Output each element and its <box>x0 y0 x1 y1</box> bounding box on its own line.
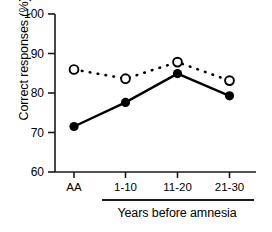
datapoint-open-11-20 <box>173 58 182 67</box>
x-axis-caption: Years before amnesia <box>97 206 257 220</box>
datapoint-filled-1-10 <box>121 98 130 107</box>
series-open-circle-line <box>74 62 230 81</box>
y-tick-label-100: 100 <box>18 7 44 21</box>
chart-figure: Correct responses (%) 100 90 80 70 60 AA… <box>0 0 272 232</box>
chart-plot-area <box>0 0 272 232</box>
datapoint-open-1-10 <box>121 74 130 83</box>
series-filled-circle-line <box>74 74 230 127</box>
series-filled-circle-markers <box>69 69 234 131</box>
y-axis-ticks <box>48 14 55 172</box>
x-tick-label-aa: AA <box>48 181 100 193</box>
datapoint-filled-aa <box>69 122 78 131</box>
datapoint-filled-21-30 <box>225 91 234 100</box>
x-axis-ticks <box>74 172 230 178</box>
y-tick-label-80: 80 <box>18 86 44 100</box>
x-tick-label-1-10: 1-10 <box>100 181 152 193</box>
x-tick-label-21-30: 21-30 <box>204 181 256 193</box>
y-tick-label-90: 90 <box>18 47 44 61</box>
datapoint-open-21-30 <box>225 76 234 85</box>
x-tick-label-11-20: 11-20 <box>152 181 204 193</box>
y-tick-label-70: 70 <box>18 126 44 140</box>
y-tick-label-60: 60 <box>18 165 44 179</box>
datapoint-filled-11-20 <box>173 69 182 78</box>
datapoint-open-aa <box>70 65 79 74</box>
